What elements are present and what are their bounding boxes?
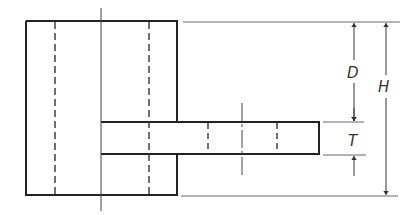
technical-drawing: D T H — [0, 0, 415, 215]
label-h: H — [378, 78, 389, 96]
centerlines — [101, 8, 242, 211]
label-d: D — [347, 64, 359, 82]
tab — [101, 122, 319, 154]
hidden-lines-block — [55, 22, 149, 194]
label-t: T — [348, 132, 359, 150]
extension-lines — [181, 22, 400, 196]
